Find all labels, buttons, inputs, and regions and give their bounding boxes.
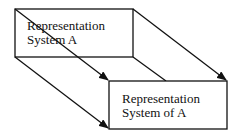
label-a-line2: System A	[27, 33, 105, 47]
label-representation-system-of-a: Representation System of A	[122, 92, 200, 120]
arrow-bottom-left	[15, 57, 108, 128]
arrow-bottom-right	[133, 57, 166, 81]
arrow-top-right	[133, 9, 226, 80]
label-a-line1: Representation	[27, 19, 105, 33]
label-representation-system-a: Representation System A	[27, 19, 105, 47]
label-of-a-line2: System of A	[122, 106, 200, 120]
label-of-a-line1: Representation	[122, 92, 200, 106]
